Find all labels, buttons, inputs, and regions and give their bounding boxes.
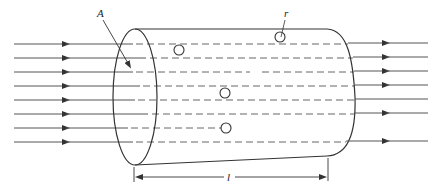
cylinder-scattering-diagram: A r l: [0, 0, 438, 194]
incoming-beam: [14, 44, 124, 142]
radius-label: r: [281, 7, 289, 37]
scatterer-circle: [174, 45, 184, 55]
length-dimension: [134, 158, 328, 182]
interior-beam-dashed: [131, 44, 355, 142]
back-face-curve: [327, 29, 355, 156]
scatterers: [174, 32, 285, 133]
area-label: A: [96, 7, 129, 65]
label-a: A: [96, 7, 104, 19]
outgoing-beam: [346, 43, 428, 141]
label-l: l: [227, 171, 230, 183]
scatterer-circle: [275, 32, 285, 42]
scatterer-circle: [220, 88, 230, 98]
scatterer-circle: [221, 123, 231, 133]
cylinder: [113, 29, 355, 165]
label-r: r: [284, 7, 289, 19]
cylinder-bottom-edge: [135, 156, 327, 165]
